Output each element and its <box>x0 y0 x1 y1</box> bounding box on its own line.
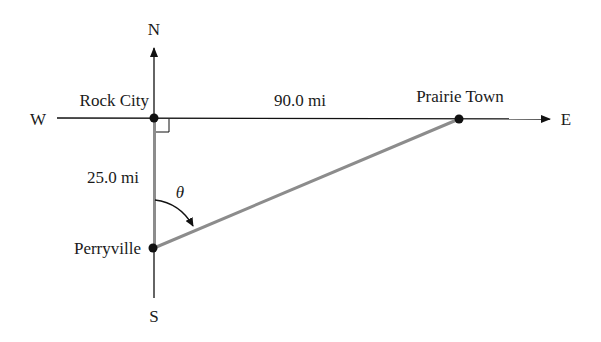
rock-city-dot <box>150 114 159 123</box>
prairie-town-dot <box>455 115 464 124</box>
distance-25-label: 25.0 mi <box>87 168 139 187</box>
theta-label: θ <box>176 183 184 202</box>
perryville-dot <box>149 244 158 253</box>
map-diagram: N S W E Rock City Prairie Town Perryvill… <box>0 0 601 342</box>
theta-arc-arrow <box>155 200 193 226</box>
north-label: N <box>148 20 160 39</box>
east-label: E <box>561 110 571 129</box>
west-label: W <box>30 110 47 129</box>
path-perryville-prairie-town <box>154 119 459 248</box>
prairie-town-label: Prairie Town <box>416 87 504 106</box>
perryville-label: Perryville <box>74 239 141 258</box>
rock-city-label: Rock City <box>80 91 150 110</box>
south-label: S <box>149 307 158 326</box>
right-angle-marker <box>156 119 169 132</box>
east-west-axis <box>57 118 550 119</box>
distance-90-label: 90.0 mi <box>274 91 326 110</box>
